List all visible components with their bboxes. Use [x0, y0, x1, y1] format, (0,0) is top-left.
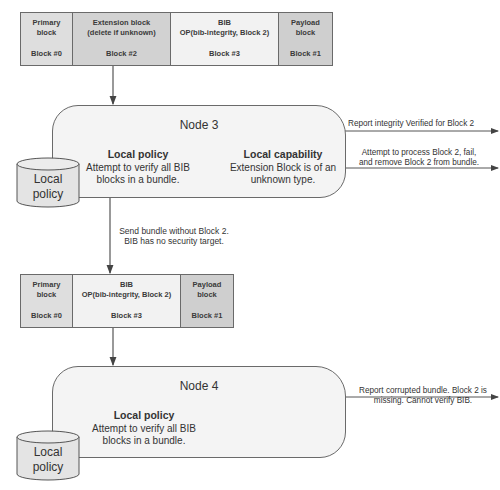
block-number: Block #0 — [21, 49, 72, 59]
transfer-label: Send bundle without Block 2. BIB has no … — [116, 226, 232, 246]
node-4: Node 4 Local policy Attempt to verify al… — [52, 366, 346, 458]
block-number: Block #3 — [171, 49, 278, 59]
node-title: Node 3 — [53, 118, 345, 132]
block-name: BIB OP(bib-integrity, Block 2) — [171, 18, 278, 38]
bundle-bottom: Primary block Block #0 BIB OP(bib-integr… — [20, 274, 234, 328]
extension-block: Extension block (delete if unknown) Bloc… — [73, 13, 171, 65]
output-label-corrupted: Report corrupted bundle. Block 2 is miss… — [347, 386, 499, 406]
output-label-verified: Report integrity Verified for Block 2 — [348, 119, 498, 129]
block-number: Block #2 — [73, 49, 170, 59]
block-name: BIB OP(bib-integrity, Block 2) — [73, 280, 180, 300]
payload-block: Payload block Block #1 — [279, 13, 332, 65]
primary-block: Primary block Block #0 — [21, 275, 73, 327]
block-number: Block #1 — [279, 49, 332, 59]
block-name: Payload block — [181, 280, 233, 300]
block-number: Block #3 — [73, 311, 180, 321]
primary-block: Primary block Block #0 — [21, 13, 73, 65]
section-heading: Local policy — [89, 409, 199, 421]
local-policy-section: Local policy Attempt to verify all BIB b… — [83, 148, 193, 186]
block-number: Block #0 — [21, 311, 72, 321]
bib-block: BIB OP(bib-integrity, Block 2) Block #3 — [73, 275, 181, 327]
local-policy-storage-node4: Local policy — [16, 430, 80, 482]
output-label-remove-block: Attempt to process Block 2, fail, and re… — [345, 148, 493, 168]
storage-label: Local policy — [16, 445, 80, 475]
storage-label: Local policy — [16, 172, 80, 202]
block-name: Primary block — [21, 18, 72, 38]
section-heading: Local capability — [221, 148, 345, 160]
node-title: Node 4 — [53, 379, 345, 393]
block-name: Extension block (delete if unknown) — [73, 18, 170, 38]
section-text: Attempt to verify all BIB blocks in a bu… — [83, 162, 193, 186]
bundle-top: Primary block Block #0 Extension block (… — [20, 12, 333, 66]
node-3: Node 3 Local policy Attempt to verify al… — [52, 105, 346, 198]
local-policy-storage-node3: Local policy — [16, 157, 80, 209]
block-number: Block #1 — [181, 311, 233, 321]
section-text: Extension Block is of an unknown type. — [221, 162, 345, 186]
section-text: Attempt to verify all BIB blocks in a bu… — [89, 423, 199, 447]
block-name: Primary block — [21, 280, 72, 300]
local-policy-section: Local policy Attempt to verify all BIB b… — [89, 409, 199, 447]
section-heading: Local policy — [83, 148, 193, 160]
block-name: Payload block — [279, 18, 332, 38]
local-capability-section: Local capability Extension Block is of a… — [221, 148, 345, 186]
payload-block: Payload block Block #1 — [181, 275, 233, 327]
bib-block: BIB OP(bib-integrity, Block 2) Block #3 — [171, 13, 279, 65]
